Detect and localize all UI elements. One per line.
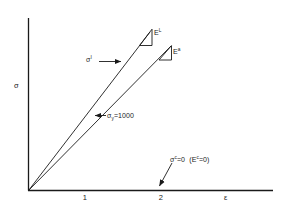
stress-strain-figure: σ ε 1 2 EL Ea σI σy=1000 σc=0 (Ec=0): [0, 0, 282, 214]
series-line-alt: [29, 46, 172, 191]
x-tick-label-2: 2: [156, 194, 166, 202]
slope-triangle-alt: [159, 46, 172, 60]
creep-note-label: σc=0 (Ec=0): [170, 156, 210, 163]
modulus-alt-superscript: a: [178, 47, 181, 52]
x-axis-label: ε: [224, 194, 227, 202]
y-axis-label: σ: [14, 82, 19, 90]
sigma-y-value: =1000: [114, 112, 134, 119]
slope-triangle-elastic: [140, 29, 153, 45]
sigma-i-label: σI: [86, 56, 92, 63]
sigma-y-label: σy=1000: [107, 112, 134, 119]
plot-canvas: [0, 0, 282, 214]
modulus-elastic-superscript: L: [159, 28, 162, 33]
creep-note-arrow: [160, 163, 173, 186]
creep-modulus-close: =0): [199, 156, 210, 163]
creep-sigma-value: =0: [177, 156, 185, 163]
sigma-i-superscript: I: [90, 55, 91, 60]
modulus-elastic-label: EL: [154, 29, 162, 36]
modulus-alt-label: Ea: [173, 48, 181, 55]
x-tick-label-1: 1: [80, 194, 90, 202]
